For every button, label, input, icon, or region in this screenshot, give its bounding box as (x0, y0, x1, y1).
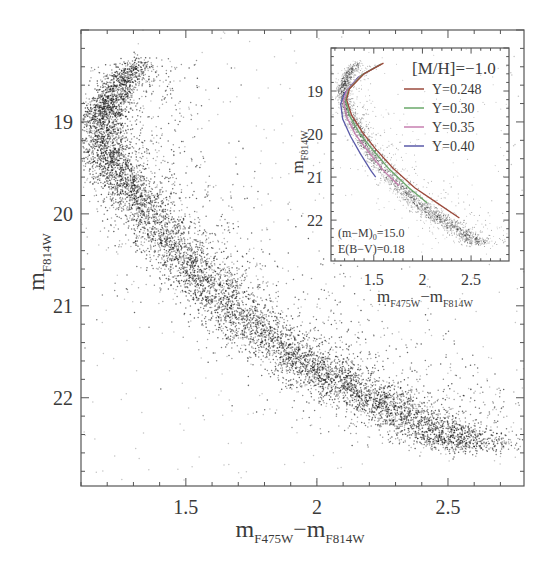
x-tick-label: 2.5 (461, 271, 481, 288)
main-x-axis-label: mF475W−mF814W (236, 516, 366, 546)
inset-y-axis-label: mF814W (288, 130, 310, 174)
legend-label: Y=0.248 (432, 82, 482, 97)
y-tick-label: 22 (307, 212, 323, 229)
y-tick-label: 21 (53, 295, 73, 317)
main-y-axis-label: mF814W (23, 232, 54, 290)
x-tick-label: 1.5 (364, 271, 384, 288)
inset-x-axis-label: mF475W−mF814W (377, 287, 474, 309)
y-tick-label: 22 (53, 387, 73, 409)
y-tick-label: 19 (307, 83, 323, 100)
inset-plot: 1.522.519202122 [M/H]=−1.0 Y=0.248Y=0.30… (288, 48, 509, 309)
inset-legend-title: [M/H]=−1.0 (412, 59, 496, 78)
y-tick-label: 21 (307, 169, 323, 186)
inset-annotation-distance: (m−M)0=15.0 (338, 226, 405, 242)
legend-label: Y=0.35 (432, 120, 475, 135)
x-tick-label: 2.5 (435, 496, 460, 518)
x-tick-label: 1.5 (173, 496, 198, 518)
legend-label: Y=0.40 (432, 139, 475, 154)
y-tick-label: 20 (53, 203, 73, 225)
inset-annotation-reddening: E(B−V)=0.18 (338, 242, 405, 256)
x-tick-label: 2 (312, 496, 322, 518)
y-tick-label: 19 (53, 111, 73, 133)
x-tick-label: 2 (418, 271, 426, 288)
legend-label: Y=0.30 (432, 101, 475, 116)
cmd-figure: 1.522.519202122 mF814W mF475W−mF814W 1.5… (0, 0, 548, 568)
